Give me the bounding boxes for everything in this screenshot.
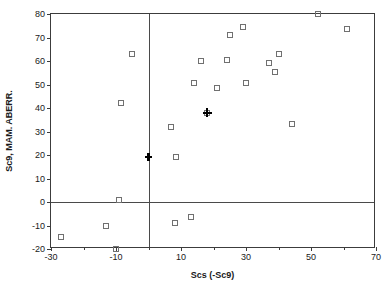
y-tick-label: -10 xyxy=(21,221,45,231)
data-point-square xyxy=(227,32,233,38)
x-tick-minor xyxy=(84,247,85,250)
y-tick xyxy=(47,108,51,109)
x-tick-minor xyxy=(344,247,345,250)
data-point-square xyxy=(191,80,197,86)
data-point-square xyxy=(113,246,119,252)
data-point-square xyxy=(240,24,246,30)
y-tick xyxy=(47,226,51,227)
data-point-square xyxy=(103,223,109,229)
y-tick xyxy=(47,38,51,39)
y-tick-label: 70 xyxy=(21,33,45,43)
data-point-square xyxy=(266,60,272,66)
x-tick-label: -30 xyxy=(44,252,57,262)
x-tick-label: 30 xyxy=(241,252,251,262)
data-point-square xyxy=(344,26,350,32)
x-tick-label: 70 xyxy=(371,252,381,262)
y-tick-label: 30 xyxy=(21,127,45,137)
y-tick xyxy=(47,85,51,86)
x-tick-label: 50 xyxy=(306,252,316,262)
data-point-square xyxy=(315,11,321,17)
data-point-square xyxy=(214,85,220,91)
y-tick-label: 10 xyxy=(21,174,45,184)
data-point-square xyxy=(198,58,204,64)
x-tick xyxy=(51,247,52,251)
x-tick xyxy=(376,247,377,251)
data-point-square xyxy=(129,51,135,57)
y-tick xyxy=(47,14,51,15)
data-point-square xyxy=(224,57,230,63)
reference-line-vertical xyxy=(149,14,150,247)
data-point-square xyxy=(289,121,295,127)
data-point-cross xyxy=(144,153,153,162)
x-tick-label: -10 xyxy=(109,252,122,262)
x-tick-label: 10 xyxy=(176,252,186,262)
data-point-square xyxy=(243,80,249,86)
y-tick-label: 20 xyxy=(21,150,45,160)
x-tick-minor xyxy=(279,247,280,250)
data-point-square xyxy=(58,234,64,240)
plot-area: -20-1001020304050607080 -30-1010305070 xyxy=(50,13,375,248)
y-tick-label: 0 xyxy=(21,197,45,207)
y-tick xyxy=(47,155,51,156)
y-tick xyxy=(47,132,51,133)
y-tick-label: 50 xyxy=(21,80,45,90)
x-tick xyxy=(181,247,182,251)
y-axis-label-container: Sc9, MAM. ABERR. xyxy=(6,13,20,248)
y-tick-label: 40 xyxy=(21,103,45,113)
data-point-square xyxy=(173,154,179,160)
data-point-square xyxy=(172,220,178,226)
data-point-square xyxy=(188,214,194,220)
data-point-square xyxy=(276,51,282,57)
data-point-square xyxy=(116,197,122,203)
y-tick-label: 60 xyxy=(21,56,45,66)
data-point-square xyxy=(168,124,174,130)
x-tick xyxy=(246,247,247,251)
y-axis-label: Sc9, MAM. ABERR. xyxy=(4,90,14,172)
y-tick-label: 80 xyxy=(21,9,45,19)
x-axis-label: Scs (-Sc9) xyxy=(50,270,375,280)
x-tick xyxy=(311,247,312,251)
y-tick xyxy=(47,61,51,62)
reference-line-horizontal xyxy=(51,202,374,203)
scatter-plot-figure: Sc9, MAM. ABERR. -20-1001020304050607080… xyxy=(0,0,392,289)
data-point-plus xyxy=(203,108,212,117)
x-tick-minor xyxy=(214,247,215,250)
y-tick xyxy=(47,179,51,180)
y-tick-label: -20 xyxy=(21,244,45,254)
data-point-square xyxy=(272,69,278,75)
data-point-square xyxy=(118,100,124,106)
x-tick-minor xyxy=(149,247,150,250)
